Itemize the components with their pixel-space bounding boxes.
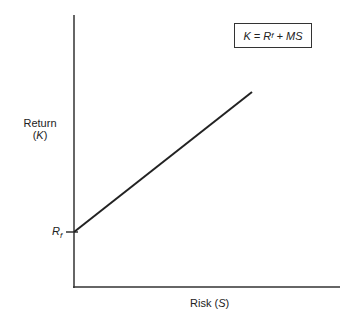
x-var: S xyxy=(218,297,225,309)
y-axis-label-text: Return xyxy=(23,117,56,129)
return-risk-line xyxy=(74,92,252,232)
eq-k: K xyxy=(243,30,250,42)
eq-rest: + MS xyxy=(274,30,303,42)
eq-r: R xyxy=(263,30,271,42)
x-axis-label-text: Risk xyxy=(190,297,211,309)
rf-sub: f xyxy=(60,231,62,240)
chart-canvas xyxy=(0,0,353,325)
equation-box: K = Rf + MS xyxy=(234,23,312,48)
eq-equals: = xyxy=(251,30,264,42)
rf-main: R xyxy=(52,225,60,237)
rf-label: Rf xyxy=(52,225,62,242)
y-axis-label: Return (K) xyxy=(18,117,62,141)
y-var: K xyxy=(36,129,43,141)
x-axis-label: Risk (S) xyxy=(190,297,229,309)
y-axis-label-var: (K) xyxy=(18,129,62,141)
